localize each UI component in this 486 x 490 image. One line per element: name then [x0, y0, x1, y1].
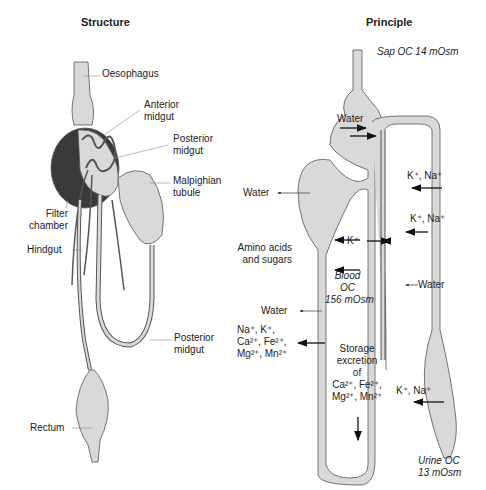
label-oesophagus: Oesophagus	[102, 68, 159, 80]
label-posterior-midgut: Posteriormidgut	[173, 133, 213, 157]
label-k-plus: K⁺	[347, 235, 359, 247]
label-water-left: Water	[243, 187, 269, 199]
label-storage-excretion: StorageexcretionofCa²⁺, Fe²⁺,Mg²⁺, Mn²⁺	[326, 343, 388, 403]
label-k-na-2: K⁺, Na⁺	[410, 213, 445, 225]
label-rectum: Rectum	[30, 422, 64, 434]
label-malpighian-tubule: Malpighiantubule	[173, 175, 221, 199]
label-k-na-1: K⁺, Na⁺	[407, 170, 442, 182]
label-k-na-3: K⁺, Na⁺	[396, 385, 431, 397]
label-water-tubule: Water	[418, 279, 444, 291]
label-water-top: Water	[337, 113, 363, 125]
label-sap-oc: Sap OC 14 mOsm	[377, 46, 459, 58]
label-amino-acids: Amino acidsand sugars	[222, 242, 292, 266]
label-ions: Na⁺, K⁺,Ca²⁺, Fe²⁺,Mg²⁺, Mn²⁺	[237, 324, 287, 360]
label-filter-chamber: Filterchamber	[20, 208, 68, 232]
principle-drawing	[278, 50, 456, 485]
principle-title: Principle	[366, 16, 412, 28]
structure-title: Structure	[81, 16, 130, 28]
label-water-mid: Water	[261, 305, 287, 317]
label-blood-oc: BloodOC156 mOsm	[325, 270, 370, 306]
label-urine-oc: Urine OC13 mOsm	[418, 455, 461, 479]
label-posterior-midgut-lower: Posteriormidgut	[174, 332, 214, 356]
label-hindgut: Hindgut	[27, 244, 61, 256]
label-anterior-midgut: Anteriormidgut	[144, 99, 179, 123]
